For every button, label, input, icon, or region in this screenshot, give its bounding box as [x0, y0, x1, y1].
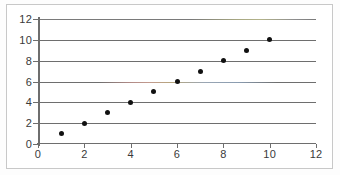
data-point	[82, 121, 87, 126]
y-tick-label-6: 6	[26, 76, 32, 87]
data-point	[267, 37, 272, 42]
x-tick-label-2: 2	[81, 149, 87, 160]
y-axis-tick-10	[33, 40, 38, 41]
gridline-4	[38, 102, 316, 103]
y-tick-label-12: 12	[19, 14, 32, 25]
y-axis-tick-12	[33, 19, 38, 20]
y-tick-label-2: 2	[26, 118, 32, 129]
gridline-12	[38, 19, 316, 20]
chart-screenshot: 12 10 8 6 4 2 0	[0, 0, 340, 175]
data-point	[175, 79, 180, 84]
y-axis-tick-2	[33, 123, 38, 124]
data-point	[151, 89, 156, 94]
data-point	[244, 48, 249, 53]
y-axis-tick-6	[33, 82, 38, 83]
x-tick-label-10: 10	[263, 149, 276, 160]
data-point	[59, 131, 64, 136]
gridline-8	[38, 61, 316, 62]
x-tick-label-12: 12	[310, 149, 323, 160]
x-tick-label-4: 4	[127, 149, 133, 160]
plot-area	[38, 19, 316, 144]
data-point	[128, 100, 133, 105]
y-tick-label-0: 0	[26, 139, 32, 150]
data-point	[198, 69, 203, 74]
x-axis-tick-labels: 0 2 4 6 8 10 12	[38, 149, 316, 165]
y-axis-line	[38, 17, 40, 146]
y-tick-label-4: 4	[26, 97, 32, 108]
x-tick-label-0: 0	[35, 149, 41, 160]
data-point	[221, 58, 226, 63]
y-axis-tick-8	[33, 61, 38, 62]
scatter-chart: 12 10 8 6 4 2 0	[0, 0, 340, 175]
y-axis-tick-4	[33, 102, 38, 103]
x-tick-label-6: 6	[174, 149, 180, 160]
gridline-2	[38, 123, 316, 124]
y-axis-tick-labels: 12 10 8 6 4 2 0	[12, 19, 32, 144]
y-tick-label-8: 8	[26, 55, 32, 66]
data-point	[105, 110, 110, 115]
x-tick-label-8: 8	[220, 149, 226, 160]
y-tick-label-10: 10	[19, 34, 32, 45]
gridline-10	[38, 40, 316, 41]
